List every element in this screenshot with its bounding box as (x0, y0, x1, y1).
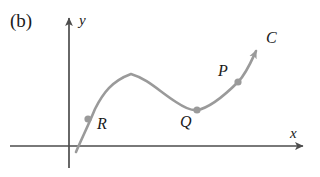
panel-label: (b) (10, 11, 32, 30)
point-label-r: R (97, 116, 107, 132)
curve-c (76, 51, 256, 152)
figure-canvas (0, 0, 320, 177)
point-marker-r (84, 115, 91, 122)
x-axis-label: x (290, 126, 297, 141)
y-axis-label: y (79, 13, 86, 28)
curve-label-c: C (266, 30, 277, 46)
point-label-q: Q (180, 114, 192, 130)
point-label-p: P (218, 63, 228, 79)
point-marker-p (234, 78, 241, 85)
point-marker-q (193, 106, 200, 113)
figure-panel: (b) y x R Q P C (0, 0, 320, 177)
